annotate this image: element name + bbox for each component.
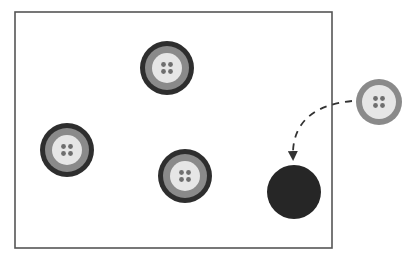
diagram-canvas <box>0 0 416 257</box>
button-moving <box>356 79 402 125</box>
button-left <box>40 123 94 177</box>
button-top <box>140 41 194 95</box>
button-middle <box>158 149 212 203</box>
target-hole <box>267 165 321 219</box>
